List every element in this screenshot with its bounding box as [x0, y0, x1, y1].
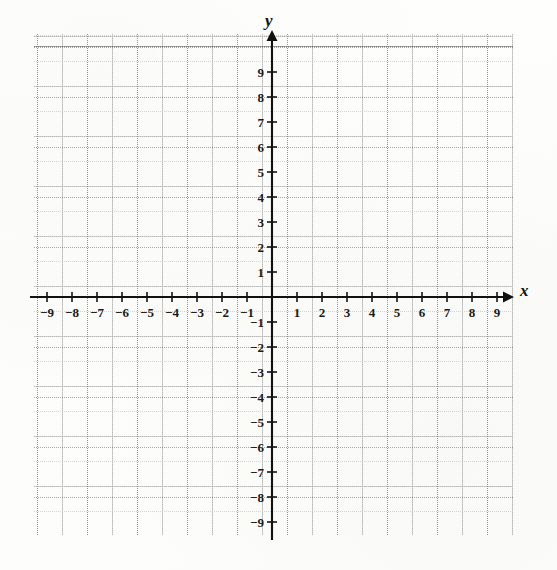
y-tick-label: 9	[258, 66, 265, 79]
x-tick-label: 6	[419, 306, 426, 319]
x-tick-label: 3	[344, 306, 351, 319]
x-tick-label: −4	[165, 306, 179, 319]
y-tick-label: −4	[250, 391, 264, 404]
coordinate-plane-figure: −9−8−7−6−5−4−3−2−1123456789 987654321−1−…	[0, 0, 557, 570]
grid-area	[34, 34, 513, 535]
y-tick-label: 8	[258, 91, 265, 104]
x-tick-label: −9	[40, 306, 54, 319]
x-tick-label: 7	[444, 306, 451, 319]
x-tick-label: 4	[369, 306, 376, 319]
x-tick-label: −2	[215, 306, 229, 319]
x-tick-label: −8	[65, 306, 79, 319]
y-axis-label: y	[265, 12, 273, 29]
y-tick-label: 7	[258, 116, 265, 129]
y-tick-label: 2	[258, 241, 265, 254]
x-tick-label: 8	[469, 306, 476, 319]
x-tick-label: 2	[319, 306, 326, 319]
grid-major-lines	[34, 34, 513, 535]
y-tick-label: −5	[250, 416, 264, 429]
y-tick-label: −8	[250, 491, 264, 504]
x-axis-label: x	[520, 282, 529, 299]
y-tick-label: 3	[258, 216, 265, 229]
y-tick-label: −3	[250, 366, 264, 379]
x-tick-label: −7	[90, 306, 104, 319]
y-tick-label: −2	[250, 341, 264, 354]
y-tick-label: 5	[258, 166, 265, 179]
y-tick-label: 6	[258, 141, 265, 154]
y-tick-label: −1	[250, 316, 264, 329]
y-tick-label: −6	[250, 441, 264, 454]
y-tick-label: −9	[250, 516, 264, 529]
x-tick-label: 5	[394, 306, 401, 319]
y-tick-label: 1	[258, 266, 265, 279]
x-tick-label: −6	[115, 306, 129, 319]
y-tick-label: −7	[250, 466, 264, 479]
x-tick-label: 1	[294, 306, 301, 319]
x-tick-label: 9	[494, 306, 501, 319]
y-tick-label: 4	[258, 191, 265, 204]
x-tick-label: −3	[190, 306, 204, 319]
x-tick-label: −5	[140, 306, 154, 319]
